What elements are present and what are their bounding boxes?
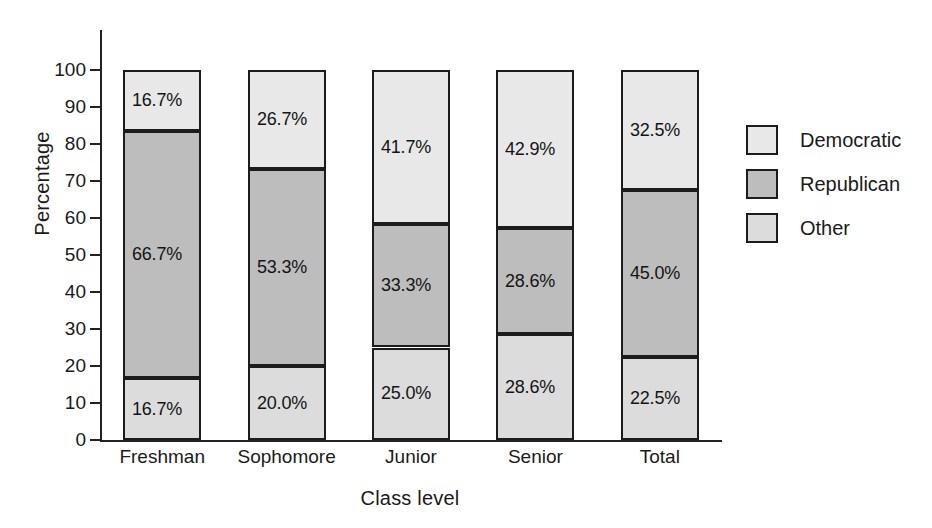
legend-label: Democratic — [800, 129, 901, 152]
bar-segment-value-label: 42.9% — [498, 139, 555, 160]
bar-segment-democratic: 32.5% — [621, 70, 699, 190]
x-axis-title: Class level — [100, 487, 720, 510]
y-tick-mark — [90, 106, 101, 108]
y-tick-label: 30 — [42, 319, 86, 338]
x-axis-label-senior: Senior — [473, 446, 597, 468]
legend-item-democratic[interactable]: Democratic — [746, 118, 901, 162]
bar-segment-other: 25.0% — [372, 348, 450, 441]
legend-label: Other — [800, 217, 850, 240]
bar-segment-value-label: 41.7% — [374, 137, 431, 158]
y-tick-label-wrap: 10 — [36, 393, 86, 412]
y-tick-label-wrap: 80 — [36, 134, 86, 153]
y-tick-label: 70 — [42, 171, 86, 190]
bar-segment-republican: 45.0% — [621, 190, 699, 357]
bar-segment-other: 16.7% — [123, 378, 201, 440]
y-tick-mark — [90, 143, 101, 145]
y-tick-mark — [90, 291, 101, 293]
bar-segment-value-label: 25.0% — [374, 383, 431, 404]
y-tick-mark — [90, 328, 101, 330]
y-tick-label: 100 — [42, 60, 86, 79]
y-tick-label-wrap: 20 — [36, 356, 86, 375]
bar-segment-republican: 28.6% — [496, 228, 574, 334]
y-tick-label: 80 — [42, 134, 86, 153]
x-axis-label-freshman: Freshman — [100, 446, 224, 468]
x-axis-label-total: Total — [598, 446, 722, 468]
bar-segment-democratic: 26.7% — [248, 70, 326, 169]
y-tick-label: 50 — [42, 245, 86, 264]
y-tick-mark — [90, 254, 101, 256]
legend-swatch-icon — [746, 125, 778, 155]
y-tick-label-wrap: 30 — [36, 319, 86, 338]
bar-segment-value-label: 20.0% — [250, 393, 307, 414]
y-tick-mark — [90, 365, 101, 367]
y-tick-label: 40 — [42, 282, 86, 301]
bar-segment-value-label: 26.7% — [250, 109, 307, 130]
bar-segment-democratic: 16.7% — [123, 70, 201, 132]
y-tick-label: 20 — [42, 356, 86, 375]
y-tick-label: 0 — [42, 430, 86, 449]
bar-senior: 28.6%28.6%42.9% — [496, 70, 574, 440]
legend: DemocraticRepublicanOther — [746, 118, 901, 250]
x-axis-label-sophomore: Sophomore — [224, 446, 348, 468]
legend-swatch-icon — [746, 169, 778, 199]
bar-segment-value-label: 16.7% — [125, 399, 182, 420]
bar-segment-other: 28.6% — [496, 334, 574, 440]
y-tick-mark — [90, 217, 101, 219]
bar-segment-value-label: 16.7% — [125, 90, 182, 111]
bar-segment-republican: 53.3% — [248, 169, 326, 366]
y-tick-mark — [90, 439, 101, 441]
bar-total: 22.5%45.0%32.5% — [621, 70, 699, 440]
bar-segment-value-label: 28.6% — [498, 271, 555, 292]
y-tick-label-wrap: 100 — [36, 60, 86, 79]
bar-freshman: 16.7%66.7%16.7% — [123, 70, 201, 440]
stacked-bar-chart: Percentage 0102030405060708090100 16.7%6… — [0, 0, 932, 528]
legend-item-other[interactable]: Other — [746, 206, 901, 250]
bar-segment-other: 20.0% — [248, 366, 326, 440]
y-tick-label: 90 — [42, 97, 86, 116]
y-tick-label: 60 — [42, 208, 86, 227]
y-tick-mark — [90, 180, 101, 182]
bar-segment-value-label: 28.6% — [498, 377, 555, 398]
bar-segment-value-label: 32.5% — [623, 120, 680, 141]
bar-segment-democratic: 42.9% — [496, 70, 574, 229]
y-tick-label-wrap: 40 — [36, 282, 86, 301]
bar-segment-value-label: 53.3% — [250, 257, 307, 278]
bar-segment-republican: 33.3% — [372, 224, 450, 347]
y-tick-label-wrap: 50 — [36, 245, 86, 264]
bar-segment-democratic: 41.7% — [372, 70, 450, 224]
bar-segment-value-label: 45.0% — [623, 263, 680, 284]
y-tick-mark — [90, 402, 101, 404]
bar-segment-value-label: 33.3% — [374, 275, 431, 296]
y-tick-label: 10 — [42, 393, 86, 412]
bar-segment-value-label: 22.5% — [623, 388, 680, 409]
y-tick-label-wrap: 90 — [36, 97, 86, 116]
legend-label: Republican — [800, 173, 900, 196]
y-axis-line — [100, 30, 102, 442]
bar-junior: 25.0%33.3%41.7% — [372, 70, 450, 440]
bar-segment-republican: 66.7% — [123, 131, 201, 378]
y-tick-mark — [90, 69, 101, 71]
bar-sophomore: 20.0%53.3%26.7% — [248, 70, 326, 440]
y-tick-label-wrap: 70 — [36, 171, 86, 190]
x-axis-line — [100, 440, 722, 442]
bar-segment-other: 22.5% — [621, 357, 699, 440]
legend-swatch-icon — [746, 213, 778, 243]
legend-item-republican[interactable]: Republican — [746, 162, 901, 206]
y-tick-label-wrap: 60 — [36, 208, 86, 227]
bar-segment-value-label: 66.7% — [125, 244, 182, 265]
x-axis-label-junior: Junior — [349, 446, 473, 468]
y-tick-label-wrap: 0 — [36, 430, 86, 449]
